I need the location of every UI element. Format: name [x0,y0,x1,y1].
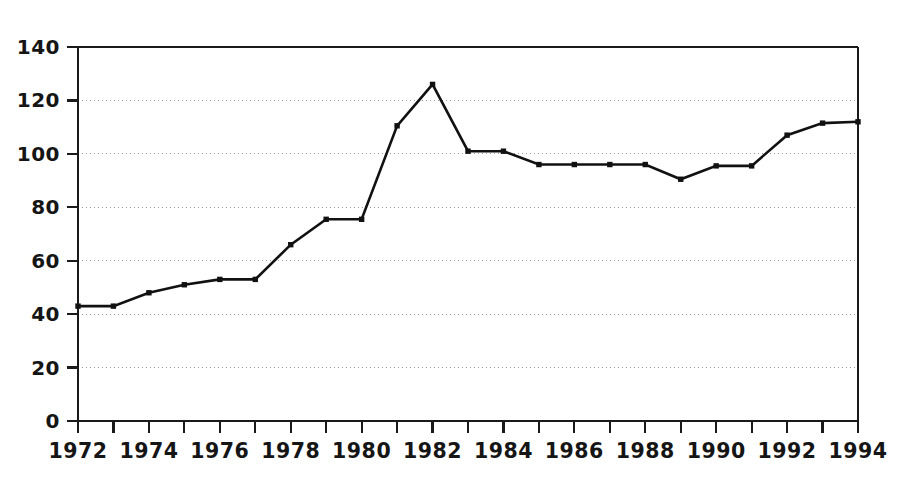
x-axis-label-1988: 1988 [616,439,675,463]
data-point-1979 [323,217,328,222]
x-axis-label-1986: 1986 [545,439,604,463]
x-axis-label-1982: 1982 [403,439,462,463]
data-point-1983 [465,148,470,153]
chart-background [0,0,910,492]
data-point-1991 [749,163,754,168]
data-point-1994 [855,119,860,124]
x-axis-label-1972: 1972 [48,439,107,463]
x-axis-label-1994: 1994 [828,439,887,463]
x-axis-label-1990: 1990 [687,439,746,463]
data-point-1990 [713,163,718,168]
x-axis-label-1980: 1980 [332,439,391,463]
y-axis-label-120: 120 [17,88,60,112]
data-point-1976 [217,277,222,282]
y-axis-label-20: 20 [31,356,60,380]
chart-container: 020406080100120140 197219741976197819801… [0,0,910,492]
x-axis-label-1976: 1976 [190,439,249,463]
x-axis-label-1974: 1974 [119,439,178,463]
x-axis-label-1992: 1992 [758,439,817,463]
data-point-1980 [359,217,364,222]
y-axis-label-0: 0 [46,409,60,433]
data-point-1987 [607,162,612,167]
y-axis-label-40: 40 [31,302,60,326]
data-point-1973 [111,303,116,308]
x-axis-label-1984: 1984 [474,439,533,463]
data-point-1988 [643,162,648,167]
data-point-1972 [75,303,80,308]
data-point-1977 [253,277,258,282]
y-axis-label-80: 80 [31,195,60,219]
data-point-1985 [536,162,541,167]
y-axis-label-100: 100 [17,142,60,166]
line-chart: 020406080100120140 197219741976197819801… [0,0,910,492]
data-point-1982 [430,82,435,87]
data-point-1975 [182,282,187,287]
data-point-1993 [820,120,825,125]
data-point-1974 [146,290,151,295]
data-point-1978 [288,242,293,247]
x-axis-label-1978: 1978 [261,439,320,463]
data-point-1986 [572,162,577,167]
data-point-1992 [784,132,789,137]
data-point-1989 [678,177,683,182]
y-axis-label-140: 140 [17,35,60,59]
data-point-1981 [394,123,399,128]
data-point-1984 [501,148,506,153]
y-axis-label-60: 60 [31,249,60,273]
